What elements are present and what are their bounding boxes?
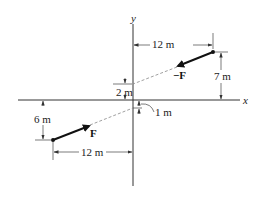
dimension-2m-label: 2 m [116, 86, 133, 98]
line-of-action-upper [133, 67, 177, 84]
dimension-6m-label: 6 m [34, 113, 51, 125]
force-f: F [51, 126, 97, 142]
dimension-top-12m-label: 12 m [152, 38, 175, 50]
dimension-top-12m: 12 m [134, 33, 213, 50]
y-axis-label: y [130, 12, 136, 24]
dimension-7m-label: 7 m [214, 70, 231, 82]
axes: y x [18, 12, 248, 186]
force-neg-f-label: −F [173, 69, 186, 81]
force-neg-f-arrow [178, 52, 213, 66]
x-axis-label: x [242, 94, 248, 106]
force-f-label: F [90, 127, 97, 139]
dimension-bottom-12m: 12 m [53, 142, 132, 160]
force-f-arrow [53, 126, 89, 140]
dimension-6m: 6 m [34, 101, 52, 140]
dimension-1m-label: 1 m [155, 106, 172, 118]
dimension-2m: 2 m [113, 78, 139, 106]
line-of-action-lower [90, 108, 133, 125]
force-neg-f: −F [173, 50, 215, 81]
dimension-7m: 7 m [214, 52, 231, 99]
force-couple-diagram: y x −F F 12 m 7 m 2 m [0, 0, 261, 201]
dimension-bottom-12m-label: 12 m [81, 146, 104, 158]
